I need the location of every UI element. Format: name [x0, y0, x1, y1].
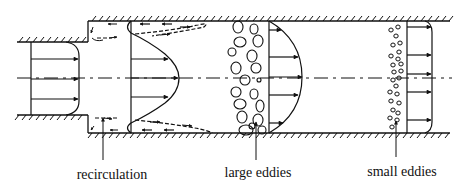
hatch-mark: [270, 133, 274, 138]
hatch-mark: [95, 133, 99, 138]
hatch-mark: [298, 133, 302, 138]
hatch-mark: [232, 16, 236, 21]
hatch-mark: [445, 133, 449, 138]
hatch-mark: [148, 16, 152, 21]
hatch-mark: [183, 16, 187, 21]
hatch-mark: [421, 16, 425, 21]
hatch-mark: [151, 133, 155, 138]
large-eddy: [240, 75, 250, 85]
large-eddy: [237, 111, 247, 123]
hatch-mark: [64, 115, 68, 120]
hatch-mark: [71, 115, 75, 120]
hatch-mark: [218, 16, 222, 21]
hatch-mark: [319, 133, 323, 138]
hatch-mark: [323, 16, 327, 21]
large-eddy: [233, 21, 243, 33]
hatch-mark: [337, 16, 341, 21]
forward-arrow: [160, 34, 170, 35]
small-eddy: [399, 69, 403, 73]
separation-line-bottom: [135, 120, 212, 133]
hatch-mark: [386, 16, 390, 21]
hatch-mark: [267, 16, 271, 21]
hatch-mark: [442, 16, 446, 21]
hatch-mark: [214, 133, 218, 138]
hatch-mark: [137, 133, 141, 138]
hatch-mark: [88, 133, 92, 138]
hatch-mark: [113, 16, 117, 21]
hatch-mark: [393, 16, 397, 21]
hatch-mark: [291, 133, 295, 138]
large-eddy: [231, 62, 241, 74]
large-eddy: [228, 48, 236, 56]
small-eddy: [389, 54, 393, 58]
hatch-mark: [123, 133, 127, 138]
hatch-mark: [109, 133, 113, 138]
hatch-mark: [316, 16, 320, 21]
small-eddy: [389, 28, 393, 32]
hatch-mark: [57, 115, 61, 120]
small-eddy: [396, 57, 400, 61]
hatch-mark: [351, 16, 355, 21]
small-eddy: [396, 25, 400, 29]
small-eddy: [394, 84, 398, 88]
hatch-mark: [326, 133, 330, 138]
hatch-mark: [284, 133, 288, 138]
hatch-mark: [176, 16, 180, 21]
hatch-mark: [449, 16, 453, 21]
hatch-mark: [169, 16, 173, 21]
hatch-mark: [344, 16, 348, 21]
hatch-mark: [379, 16, 383, 21]
hatch-mark: [365, 16, 369, 21]
hatch-mark: [54, 37, 58, 42]
recirculation-label: recirculation: [77, 167, 148, 182]
large-eddy: [234, 37, 246, 47]
hatch-mark: [193, 133, 197, 138]
small-eddy: [394, 34, 398, 38]
hatch-mark: [127, 16, 131, 21]
recirc-arrow: [109, 37, 117, 38]
hatch-mark: [354, 133, 358, 138]
small-eddies-profile: [407, 21, 432, 133]
hatch-mark: [47, 37, 51, 42]
hatch-mark: [116, 133, 120, 138]
hatch-mark: [179, 133, 183, 138]
separation-line-top: [135, 24, 206, 36]
hatch-mark: [428, 16, 432, 21]
hatch-mark: [438, 133, 442, 138]
hatch-mark: [15, 115, 19, 120]
hatch-mark: [256, 133, 260, 138]
hatch-mark: [389, 133, 393, 138]
small-eddy: [388, 90, 392, 94]
large-eddy: [257, 78, 261, 82]
hatch-mark: [211, 16, 215, 21]
hatch-mark: [43, 115, 47, 120]
small-eddy: [392, 70, 396, 74]
hatch-mark: [33, 37, 37, 42]
hatch-mark: [228, 133, 232, 138]
hatch-mark: [403, 133, 407, 138]
small-eddy: [391, 108, 395, 112]
hatch-mark: [165, 133, 169, 138]
hatch-mark: [309, 16, 313, 21]
large-eddy: [250, 89, 258, 99]
hatch-mark: [277, 133, 281, 138]
hatch-mark: [40, 37, 44, 42]
recirc-arrow: [91, 27, 93, 33]
recirculation-zone: [91, 24, 118, 130]
hatch-mark: [26, 37, 30, 42]
hatch-mark: [424, 133, 428, 138]
expansion-profile-curve: [128, 21, 180, 133]
hatch-mark: [22, 115, 26, 120]
hatch-mark: [235, 133, 239, 138]
small-eddies-profile-curve: [425, 21, 432, 133]
pipe-expansion-diagram: recirculation large eddies small eddies: [0, 0, 468, 191]
hatch-mark: [197, 16, 201, 21]
large-eddies-label: large eddies: [225, 165, 292, 180]
hatch-mark: [260, 16, 264, 21]
small-eddy: [391, 78, 395, 82]
hatch-mark: [36, 115, 40, 120]
hatch-mark: [207, 133, 211, 138]
hatch-mark: [288, 16, 292, 21]
hatch-mark: [330, 16, 334, 21]
hatch-mark: [410, 133, 414, 138]
